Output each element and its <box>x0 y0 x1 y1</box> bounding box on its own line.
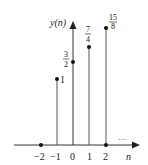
point-n2 <box>104 26 108 30</box>
continuation-ellipsis: … <box>118 133 126 142</box>
value-den-n2: 8 <box>111 22 115 31</box>
y-axis-arrow-icon <box>70 21 77 29</box>
tick-n1: 1 <box>87 151 92 162</box>
y-axis-label: y(n) <box>49 17 67 29</box>
value-label-n-minus1: 1 <box>60 74 65 85</box>
tick-n-minus1: −1 <box>50 151 61 162</box>
value-den-n1: 4 <box>86 35 90 44</box>
point-n-minus1 <box>55 77 59 81</box>
value-num-n1: 7 <box>86 25 90 34</box>
value-num-n2: 15 <box>109 13 117 22</box>
x-axis-arrow-icon <box>132 142 140 149</box>
tick-n2: 2 <box>103 151 108 162</box>
point-n0 <box>71 60 75 64</box>
stem-plot: y(n) n −2 −1 0 1 2 1 3 2 7 4 15 8 … <box>0 0 148 165</box>
value-den-n0: 2 <box>64 60 68 69</box>
tick-n-minus2: −2 <box>34 151 45 162</box>
point-n1 <box>87 45 91 49</box>
point-n2-axis <box>104 143 108 147</box>
x-axis-label: n <box>126 151 131 162</box>
point-n-minus2 <box>39 143 43 147</box>
tick-n0: 0 <box>70 151 75 162</box>
value-num-n0: 3 <box>64 50 68 59</box>
